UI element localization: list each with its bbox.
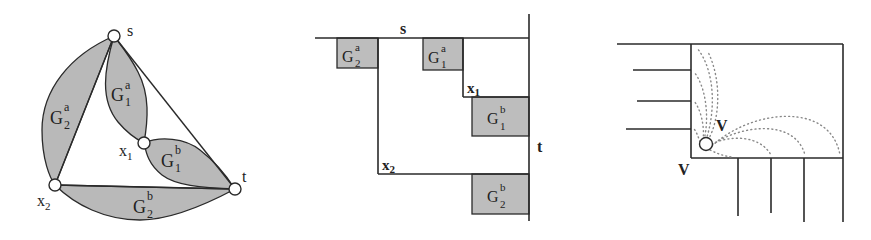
dotted-curve: [710, 150, 734, 157]
node-t: [229, 183, 241, 195]
svg-text:a: a: [125, 78, 131, 92]
outer-v-label: V: [678, 161, 690, 178]
layout-label-x2: x2: [382, 157, 396, 175]
svg-text:a: a: [355, 41, 360, 53]
layout-label-x1: x1: [467, 80, 480, 98]
dotted-curve: [697, 48, 712, 140]
svg-text:G: G: [50, 108, 63, 128]
node-s: [108, 30, 120, 42]
label-x1: x1: [119, 142, 133, 162]
vertex-node: [700, 138, 713, 151]
svg-text:G: G: [161, 151, 174, 171]
svg-text:a: a: [441, 42, 446, 54]
label-s: s: [127, 22, 133, 39]
graph-panel: s x1 x2 t G a 2 G a 1 G b 1 G b 2: [37, 22, 247, 221]
svg-text:G: G: [342, 48, 354, 65]
dotted-curve: [694, 72, 707, 140]
label-x2: x2: [37, 192, 51, 212]
svg-text:1: 1: [175, 161, 181, 175]
layout-label-s: s: [400, 20, 406, 37]
svg-text:b: b: [500, 181, 506, 193]
layout-panel: s t x1 x2 G a 2 G a 1 G b 1 G b 2: [315, 14, 543, 221]
vertex-box-panel: V V: [617, 44, 843, 222]
svg-text:2: 2: [500, 198, 506, 210]
node-x1: [138, 137, 150, 149]
svg-text:a: a: [64, 100, 70, 114]
svg-text:b: b: [175, 143, 181, 157]
svg-text:b: b: [500, 103, 506, 115]
node-x2: [49, 179, 61, 191]
svg-text:2: 2: [355, 57, 361, 69]
layout-label-t: t: [537, 138, 543, 155]
svg-text:1: 1: [441, 58, 447, 70]
region-g1b: [144, 139, 235, 189]
svg-text:G: G: [133, 197, 146, 217]
svg-text:b: b: [147, 189, 153, 203]
dotted-curve: [712, 138, 771, 155]
dotted-curve: [694, 101, 703, 140]
figure-canvas: s x1 x2 t G a 2 G a 1 G b 1 G b 2: [0, 0, 871, 240]
svg-text:G: G: [111, 85, 124, 105]
svg-text:1: 1: [500, 120, 506, 132]
svg-text:1: 1: [125, 95, 131, 109]
svg-text:2: 2: [147, 207, 153, 221]
dotted-curve: [694, 129, 700, 142]
svg-text:G: G: [487, 188, 499, 205]
svg-text:2: 2: [64, 118, 70, 132]
dotted-curve: [712, 116, 840, 155]
label-t: t: [242, 168, 247, 185]
svg-text:G: G: [487, 110, 499, 127]
svg-text:G: G: [428, 49, 440, 66]
inner-v-label: V: [716, 117, 728, 134]
